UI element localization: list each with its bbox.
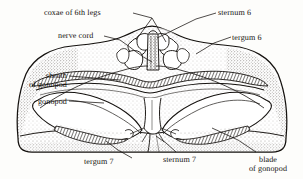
figure-illustration [0, 0, 303, 179]
label-blade-line-1: blade [259, 155, 277, 164]
label-gonopod: gonopod [7, 97, 67, 106]
label-sheath-of-gonopod: sheath of gonopod [9, 71, 67, 89]
label-blade-line-2: of gonopod [249, 164, 287, 173]
label-blade-of-gonopod: blade of gonopod [238, 155, 298, 173]
label-coxae-of-6th-legs: coxae of 6th legs [44, 8, 101, 17]
label-sheath-line-1: sheath [46, 71, 67, 80]
label-sheath-line-2: of gonopod [29, 80, 67, 89]
label-sternum-6: sternum 6 [218, 8, 251, 17]
anatomical-figure: coxae of 6th legs sternum 6 nerve cord t… [0, 0, 303, 179]
sternum-6 [147, 31, 159, 70]
label-nerve-cord: nerve cord [58, 31, 93, 40]
label-tergum-6: tergum 6 [232, 33, 262, 42]
label-tergum-7: tergum 7 [84, 157, 114, 166]
label-sternum-7: sternum 7 [163, 155, 196, 164]
